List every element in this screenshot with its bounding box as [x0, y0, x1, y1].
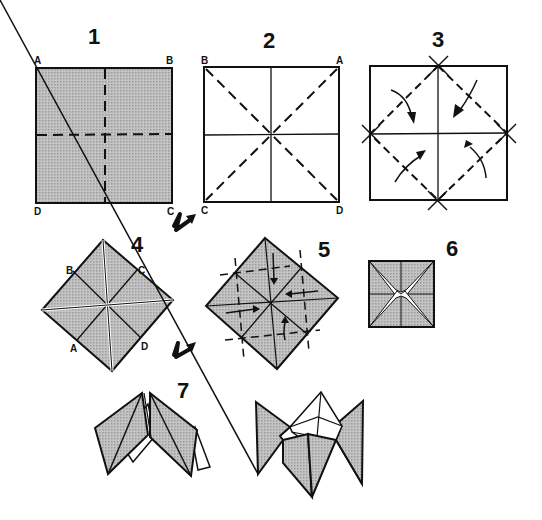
step-3-number: 3	[432, 27, 444, 52]
corner-label: B	[166, 55, 173, 66]
step-5: 5	[206, 237, 338, 369]
step-4: 4 B C A D	[42, 232, 173, 371]
origami-diagram: 1 A B C D 2 B A C D 3	[0, 0, 542, 520]
corner-label: B	[201, 55, 208, 66]
step-6: 6	[369, 236, 458, 327]
corner-label: B	[66, 265, 73, 276]
corner-label: C	[138, 265, 145, 276]
step-1: 1 A B C D	[34, 24, 174, 217]
turn-over-arrow-icon	[174, 214, 196, 230]
step-6-number: 6	[446, 236, 458, 261]
corner-label: C	[167, 206, 174, 217]
step-2-number: 2	[263, 28, 275, 53]
step-3: 3	[362, 27, 516, 210]
step-7: 7	[95, 378, 210, 476]
corner-label: A	[70, 343, 77, 354]
step-5-number: 5	[318, 237, 330, 262]
corner-label: C	[201, 205, 208, 216]
corner-label: D	[141, 341, 148, 352]
step-1-number: 1	[88, 24, 100, 49]
step-7-number: 7	[177, 378, 189, 403]
step-2: 2 B A C D	[201, 28, 343, 216]
corner-label: D	[34, 206, 41, 217]
corner-label: A	[336, 55, 343, 66]
corner-label: D	[336, 205, 343, 216]
